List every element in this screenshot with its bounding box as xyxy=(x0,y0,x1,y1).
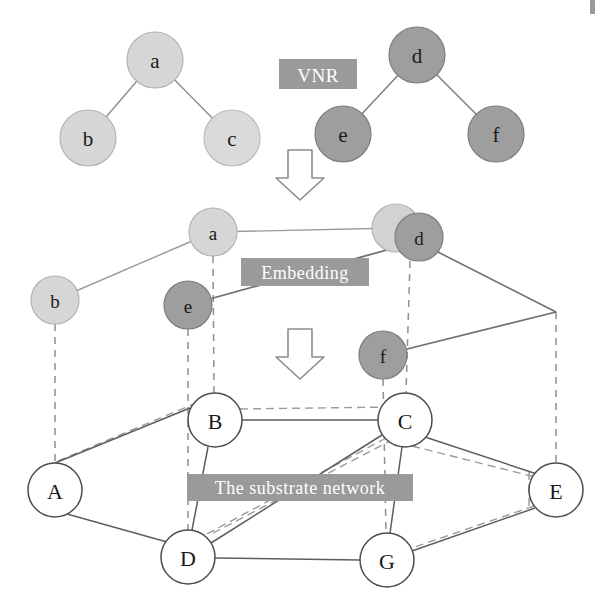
substrate-edge-A-B xyxy=(55,408,190,463)
substrate-edge-A-D xyxy=(67,514,167,542)
vnr-node-d[interactable]: d xyxy=(389,27,445,83)
virtual-path-C-E xyxy=(412,446,535,477)
vnr-node-f-label: f xyxy=(493,123,500,147)
vnr-node-b[interactable]: b xyxy=(60,110,116,166)
substrate-node-A-label: A xyxy=(47,479,63,504)
caption-substrate-label: The substrate network xyxy=(215,478,385,498)
caption-vnr: VNR xyxy=(279,59,357,89)
embedding-node-b-label: b xyxy=(50,291,60,312)
virtual-path-E-G xyxy=(412,506,534,548)
embedding-node-e-label: e xyxy=(184,296,192,317)
mapping-link-d-to-C xyxy=(406,261,410,393)
embedding-node-f[interactable]: f xyxy=(359,331,407,379)
caption-embedding: Embedding xyxy=(241,258,369,286)
vnr-node-c-label: c xyxy=(227,127,236,151)
substrate-edge-C-E xyxy=(425,437,537,474)
caption-substrate: The substrate network xyxy=(187,474,413,501)
arrow-embedding-to-substrate-icon xyxy=(276,329,324,379)
diagram-canvas: a b c d e f xyxy=(0,0,599,605)
substrate-node-E[interactable]: E xyxy=(529,463,583,517)
vnr-node-e-label: e xyxy=(338,123,347,147)
embedding-node-a-label: a xyxy=(209,223,218,244)
embedding-node-f-label: f xyxy=(380,346,387,367)
arrow-vnr-to-embedding-icon xyxy=(276,150,324,200)
vnr-node-d-label: d xyxy=(412,44,423,68)
substrate-node-D-label: D xyxy=(180,546,196,571)
mapping-link-a-to-B xyxy=(213,256,214,393)
substrate-node-B-label: B xyxy=(208,409,223,434)
substrate-node-B[interactable]: B xyxy=(188,393,242,447)
embedding-edge-a-c xyxy=(213,228,396,232)
substrate-node-D[interactable]: D xyxy=(161,530,215,584)
substrate-edge-D-G xyxy=(215,558,360,560)
substrate-node-E-label: E xyxy=(549,479,562,504)
vnr-node-c[interactable]: c xyxy=(204,110,260,166)
vnr-node-e[interactable]: e xyxy=(315,106,371,162)
embedding-node-d[interactable]: d xyxy=(395,213,443,261)
substrate-node-C-label: C xyxy=(398,409,413,434)
substrate-node-G-label: G xyxy=(379,549,395,574)
vnr-node-a-label: a xyxy=(150,49,160,73)
substrate-edge-E-G xyxy=(412,508,535,551)
vnr-nodes: a b c d e f xyxy=(60,27,524,166)
virtual-path-B-C xyxy=(240,407,392,409)
caption-vnr-label: VNR xyxy=(297,65,339,86)
vnr-node-a[interactable]: a xyxy=(127,32,183,88)
substrate-node-A[interactable]: A xyxy=(28,463,82,517)
vnr-node-b-label: b xyxy=(83,127,94,151)
vnr-node-f[interactable]: f xyxy=(468,106,524,162)
embedding-edge-d-corner xyxy=(430,248,556,312)
embedding-node-d-label: d xyxy=(414,228,424,249)
network-embedding-figure: a b c d e f xyxy=(0,0,599,605)
embedding-node-a[interactable]: a xyxy=(189,208,237,256)
embedding-node-b[interactable]: b xyxy=(31,276,79,324)
caption-embedding-label: Embedding xyxy=(261,263,349,283)
virtual-path-A-B xyxy=(46,403,196,466)
embedding-node-e[interactable]: e xyxy=(164,281,212,329)
substrate-node-C[interactable]: C xyxy=(378,393,432,447)
substrate-node-G[interactable]: G xyxy=(360,533,414,587)
